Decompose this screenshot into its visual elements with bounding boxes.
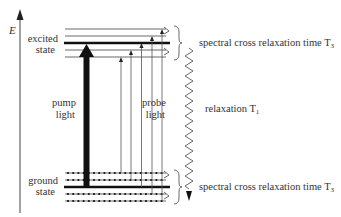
relaxation-wavy-arrow bbox=[185, 48, 193, 201]
brace-bottom-icon bbox=[174, 170, 182, 204]
probe-label-2: light bbox=[146, 109, 165, 120]
ground-levels bbox=[64, 171, 170, 201]
energy-axis bbox=[17, 9, 24, 213]
relaxation-arrowhead-icon bbox=[186, 191, 192, 201]
pump-arrow bbox=[79, 44, 94, 187]
probe-label-1: probe bbox=[142, 97, 166, 108]
ground-state-label-1: ground bbox=[28, 175, 58, 186]
pump-label-2: light bbox=[56, 109, 75, 120]
pump-arrowhead-icon bbox=[79, 44, 94, 57]
excited-state-label-1: excited bbox=[28, 33, 59, 44]
energy-level-diagram: E excited state ground state pump light bbox=[0, 0, 341, 217]
ground-state-label-2: state bbox=[36, 186, 56, 197]
spectral-top-label: spectral cross relaxation time T3 bbox=[199, 37, 335, 50]
spectral-bottom-label: spectral cross relaxation time T3 bbox=[199, 181, 335, 194]
relaxation-label: relaxation T1 bbox=[205, 103, 260, 116]
axis-arrow-icon bbox=[17, 9, 24, 20]
axis-label: E bbox=[8, 24, 16, 36]
pump-label-1: pump bbox=[52, 97, 76, 108]
brace-top-icon bbox=[174, 26, 182, 60]
excited-state-label-2: state bbox=[36, 44, 56, 55]
excited-levels bbox=[64, 27, 170, 57]
